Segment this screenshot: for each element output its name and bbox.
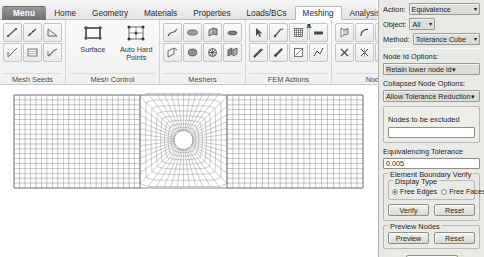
verify-reset-button[interactable]: Reset [434,204,475,216]
display-type-radio-row: Free Edges Free Faces [392,187,471,196]
edit-mesher-icon[interactable] [163,43,182,62]
nodes-to-be-excluded-label: Nodes to be excluded [388,115,475,124]
radio-free-edges[interactable]: Free Edges [392,187,437,196]
sweep-mesher-icon[interactable] [223,23,242,42]
tab-analysis-label: Analysis [350,9,381,18]
collapsed-node-options-label: Collapsed Node Options: [383,79,480,88]
radio-free-edges-dot [392,189,398,195]
tab-materials[interactable]: Materials [136,6,185,20]
preview-reset-button-row: Preview Reset [388,232,475,244]
application-window: Menu Home Geometry Materials Properties … [0,0,484,257]
tab-materials-label: Materials [144,9,177,18]
method-row: Method: Tolerance Cube ▾ [383,33,480,45]
nodes-to-be-excluded-input[interactable] [388,127,475,138]
solid-mesher-icon[interactable] [203,23,222,42]
tab-properties-label: Properties [193,9,230,18]
equivalencing-tolerance-input[interactable]: 0.005 [383,158,480,169]
tab-geometry[interactable]: Geometry [84,6,136,20]
two-way-bias-seed-icon[interactable] [43,23,62,42]
mesh-on-mesh-icon[interactable] [183,43,202,62]
tab-home-label: Home [54,9,76,18]
fem-actions-buttons: a [249,23,328,67]
equivalence-options-panel: Action: Equivalence ▾ Object: All ▾ Meth… [378,0,484,257]
uniform-seed-icon[interactable] [3,23,22,42]
merge-node-icon[interactable] [355,43,374,62]
tab-menu[interactable]: Menu [2,6,46,20]
radio-free-faces-label: Free Faces [449,187,484,196]
ribbon-group-fem-actions: a [246,20,332,84]
delete-node-icon[interactable] [335,43,354,62]
method-dropdown[interactable]: Tolerance Cube ▾ [413,33,480,45]
object-value: All [412,20,420,29]
surface-mesher-icon[interactable] [183,23,202,42]
action-dropdown[interactable]: Equivalence ▾ [409,3,480,15]
node-id-options-dropdown[interactable]: Retain lower node id ▾ [383,63,480,75]
tab-properties[interactable]: Properties [185,6,238,20]
pcl-seed-icon[interactable] [43,43,62,62]
action-value: Equivalence [412,5,451,14]
tab-menu-label: Menu [13,9,35,18]
equivalencing-tolerance-label: Equivalencing Tolerance [383,147,480,156]
equivalence-icon[interactable] [269,43,288,62]
mesh-paver-icon[interactable] [223,43,242,62]
action-row: Action: Equivalence ▾ [383,3,480,15]
group-label-mesh-seeds: Mesh Seeds [3,73,62,84]
tab-meshing-label: Meshing [303,9,334,18]
tab-home[interactable]: Home [46,6,84,20]
tab-meshing[interactable]: Meshing [295,6,342,20]
surface-mesh-control-button[interactable]: Surface [73,23,113,54]
one-way-bias-seed-icon[interactable] [23,23,42,42]
node-id-options-label: Node Id Options: [383,52,480,61]
tab-geometry-label: Geometry [92,9,128,18]
action-label: Action: [383,5,406,14]
collapsed-node-options-dropdown[interactable]: Allow Tolerance Reduction ▾ [383,90,480,102]
surface-mesh-control-label: Surface [80,46,105,54]
ribbon: Menu Home Geometry Materials Properties … [0,0,377,85]
pick-node-icon[interactable] [249,23,268,42]
preview-button[interactable]: Preview [388,232,429,244]
display-type-title: Display Type [393,177,439,186]
preview-nodes-title: Preview Nodes [388,222,442,231]
chevron-down-icon: ▾ [426,21,432,27]
chevron-down-icon: ▾ [471,6,477,12]
tabular-seed-icon[interactable] [23,43,42,62]
group-label-meshers: Meshers [163,73,242,84]
mesh-seeds-buttons [3,23,62,67]
associate-icon[interactable] [269,23,288,42]
plate-with-hole-mesh [0,85,377,257]
ribbon-group-mesh-seeds: Mesh Seeds [0,20,66,84]
radio-free-edges-label: Free Edges [400,187,437,196]
renumber-icon[interactable] [249,43,268,62]
curve-based-seed-icon[interactable] [3,43,22,62]
equivalence-all-icon[interactable] [309,23,328,42]
method-value: Tolerance Cube [416,35,466,44]
arc-node-icon[interactable] [355,23,374,42]
preview-reset-button[interactable]: Reset [434,232,475,244]
preview-nodes-group: Preview Nodes Preview Reset [383,225,480,249]
radio-free-faces[interactable]: Free Faces [441,187,484,196]
ribbon-tab-bar: Menu Home Geometry Materials Properties … [0,0,377,20]
nodes-to-be-excluded-group: Nodes to be excluded [383,106,480,143]
verify-mesh-icon[interactable] [289,23,308,42]
sweep-action-icon[interactable] [309,43,328,62]
model-viewport[interactable] [0,85,377,257]
optimize-icon[interactable] [289,43,308,62]
auto-hard-points-button[interactable]: Auto Hard Points [117,23,157,62]
verify-button[interactable]: Verify [388,204,429,216]
surface-mesh-control-icon [81,23,105,45]
display-type-group: Display Type Free Edges Free Faces [388,180,475,200]
annotation-badge-a: a [307,22,311,29]
tab-loads-bcs[interactable]: Loads/BCs [239,6,295,20]
group-label-mesh-control: Mesh Control [69,73,156,84]
radio-free-faces-dot [441,189,447,195]
element-boundary-verify-group: Element Boundary Verify Display Type Fre… [383,173,480,221]
method-label: Method: [383,35,410,44]
object-row: Object: All ▾ [383,18,480,30]
create-node-icon[interactable] [335,23,354,42]
node-id-options-value: Retain lower node id [386,65,452,74]
mesh-seed-edit-icon[interactable] [203,43,222,62]
object-dropdown[interactable]: All ▾ [409,18,435,30]
panel-divider [383,48,480,49]
curve-mesher-icon[interactable] [163,23,182,42]
mesh-control-buttons: Surface [69,23,156,67]
